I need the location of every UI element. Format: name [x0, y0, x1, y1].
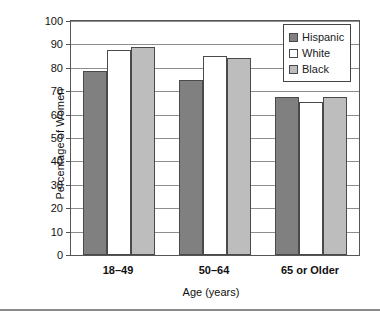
legend: Hispanic White Black: [283, 24, 351, 82]
legend-label-black: Black: [302, 63, 329, 75]
bar-black-0: [131, 47, 155, 255]
legend-label-white: White: [302, 47, 330, 59]
x-axis-title-text: Age (years): [183, 286, 240, 298]
legend-swatch-black: [289, 65, 298, 74]
x-axis-tick-label-1: 50–64: [199, 264, 230, 276]
y-axis-tick-label: 30: [51, 179, 63, 191]
bar-black-1: [227, 58, 251, 255]
bar-chart-figure: Percentage of Women 01020304050607080901…: [0, 0, 380, 315]
legend-label-hispanic: Hispanic: [302, 31, 344, 43]
legend-item-white: White: [289, 45, 344, 61]
legend-item-black: Black: [289, 61, 344, 77]
y-axis-tick-label: 60: [51, 109, 63, 121]
y-axis-tick-label: 0: [57, 249, 63, 261]
y-axis-tick-label: 20: [51, 202, 63, 214]
bar-white-2: [299, 102, 323, 255]
y-axis-tick-label: 100: [45, 15, 63, 27]
y-tick-mark: [66, 255, 71, 256]
x-axis-tick-label-0: 18–49: [103, 264, 134, 276]
x-axis-tick-label-2: 65 or Older: [281, 264, 339, 276]
y-axis-tick-label: 10: [51, 226, 63, 238]
y-axis-tick-label: 50: [51, 132, 63, 144]
legend-swatch-white: [289, 49, 298, 58]
bottom-divider: [0, 309, 380, 311]
legend-item-hispanic: Hispanic: [289, 29, 344, 45]
x-axis-title: Age (years): [0, 286, 380, 298]
bar-white-0: [107, 50, 131, 255]
bar-hispanic-0: [83, 71, 107, 255]
y-axis-tick-label: 40: [51, 155, 63, 167]
bar-white-1: [203, 56, 227, 255]
y-axis-tick-label: 70: [51, 85, 63, 97]
y-axis-tick-label: 80: [51, 62, 63, 74]
bar-hispanic-2: [275, 97, 299, 255]
bar-black-2: [323, 97, 347, 255]
bar-hispanic-1: [179, 80, 203, 256]
y-axis-tick-label: 90: [51, 38, 63, 50]
legend-swatch-hispanic: [289, 33, 298, 42]
